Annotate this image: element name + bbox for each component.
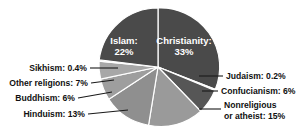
pie-label-buddhism: Buddhism: 6%	[15, 93, 75, 103]
pie-label-nonreligious-line1: Nonreligious	[224, 100, 277, 110]
pie-label-other-religions: Other religions: 7%	[9, 78, 88, 88]
pie-label-christianity-line2: 33%	[174, 46, 194, 57]
pie-label-sikhism: Sikhism: 0.4%	[29, 63, 87, 73]
pie-label-judaism: Judaism: 0.2%	[226, 71, 286, 81]
pie-label-hinduism: Hinduism: 13%	[23, 109, 85, 119]
pie-chart-svg: Islam: 22% Christianity: 33% Sikhism: 0.…	[0, 0, 300, 130]
pie-label-christianity-line1: Christianity:	[156, 35, 211, 46]
pie-label-nonreligious-line2: or atheist: 15%	[224, 111, 285, 121]
pie-label-islam-line2: 22%	[114, 46, 134, 57]
pie-label-islam-line1: Islam:	[110, 35, 137, 46]
pie-chart-figure: Islam: 22% Christianity: 33% Sikhism: 0.…	[0, 0, 300, 130]
outer-labels-right: Judaism: 0.2% Confucianism: 6% Nonreligi…	[221, 71, 296, 121]
pie-label-confucianism: Confucianism: 6%	[221, 86, 296, 96]
outer-labels-left: Sikhism: 0.4% Other religions: 7% Buddhi…	[9, 63, 88, 119]
